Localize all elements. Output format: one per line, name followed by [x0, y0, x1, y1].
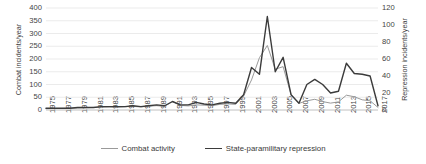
legend-label: State-paramilitary repression: [226, 144, 326, 153]
series-line-state-paramilitary-repression: [46, 17, 378, 109]
dual-axis-line-chart: Combat incidents/year Repression inciden…: [0, 0, 426, 164]
plot-area: [46, 8, 378, 110]
series-line-combat-activity: [46, 45, 378, 108]
chart-legend: Combat activityState-paramilitary repres…: [0, 140, 426, 156]
legend-line-icon: [205, 148, 222, 149]
legend-item[interactable]: State-paramilitary repression: [205, 144, 326, 153]
x-tick: 2017: [381, 96, 389, 113]
plot-svg: [46, 8, 378, 110]
legend-line-icon: [101, 148, 118, 149]
legend-item[interactable]: Combat activity: [101, 144, 175, 153]
legend-label: Combat activity: [122, 144, 175, 153]
